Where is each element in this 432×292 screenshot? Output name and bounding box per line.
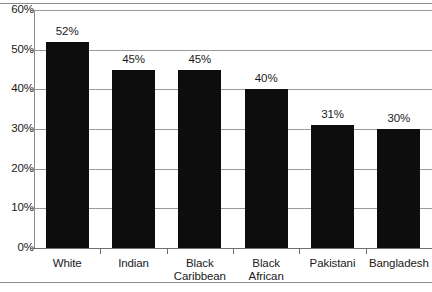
y-axis-tick (30, 129, 34, 130)
x-axis-category-label: Bangladesh (354, 257, 432, 270)
y-axis-tick (30, 169, 34, 170)
y-axis-label: 10% (0, 202, 34, 214)
y-axis-tick (30, 89, 34, 90)
x-axis-label-line: Bangladesh (354, 257, 432, 270)
bar-value-label: 30% (369, 113, 429, 125)
bar-value-label: 45% (170, 54, 230, 66)
gridline (34, 50, 432, 51)
y-axis-tick (30, 248, 34, 249)
bar (178, 70, 221, 249)
gridline (34, 129, 432, 130)
bar-value-label: 40% (236, 73, 296, 85)
page-rule-top (0, 3, 432, 4)
x-axis-tick (233, 249, 234, 254)
plot-area: 0%10%20%30%40%50%60%52%45%45%40%31%30% (34, 10, 432, 248)
gridline (34, 208, 432, 209)
gridline (34, 10, 432, 11)
bar (46, 42, 89, 248)
bar-value-label: 31% (303, 109, 363, 121)
bar (377, 129, 420, 248)
y-axis-label: 50% (0, 44, 34, 56)
y-axis-label: 0% (0, 242, 34, 254)
gridline (34, 89, 432, 90)
x-axis-tick (167, 249, 168, 254)
bar-value-label: 52% (37, 26, 97, 38)
gridline (34, 169, 432, 170)
bar (112, 70, 155, 249)
x-axis-tick (100, 249, 101, 254)
bar (311, 125, 354, 248)
y-axis-tick (30, 10, 34, 11)
y-axis-label: 30% (0, 123, 34, 135)
x-axis-label-line: African (221, 270, 311, 283)
x-axis-tick (299, 249, 300, 254)
y-axis-label: 20% (0, 163, 34, 175)
bar-chart: 0%10%20%30%40%50%60%52%45%45%40%31%30% W… (0, 0, 432, 292)
y-axis-label: 60% (0, 4, 34, 16)
y-axis-tick (30, 208, 34, 209)
x-axis-tick (366, 249, 367, 254)
bar (245, 89, 288, 248)
y-axis-label: 40% (0, 83, 34, 95)
y-axis-tick (30, 50, 34, 51)
bar-value-label: 45% (104, 54, 164, 66)
